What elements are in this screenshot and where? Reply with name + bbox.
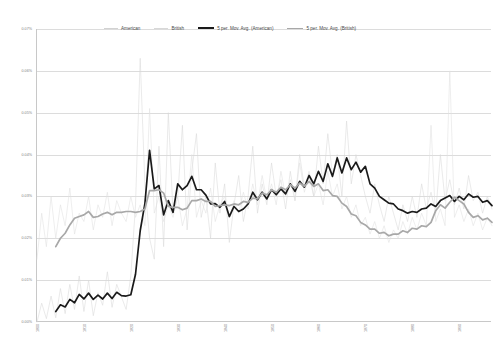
x-axis-tick-label: 1850 — [271, 324, 275, 332]
x-axis-tick-label: 1820 — [130, 324, 134, 332]
x-axis-tick-label: 1860 — [317, 324, 321, 332]
y-axis-labels: 0.00%0.01%0.02%0.03%0.04%0.05%0.06%0.07% — [0, 0, 34, 293]
x-axis-labels: 1800181018201830184018501860187018801890 — [36, 323, 491, 344]
y-axis-tick-label: 0.06% — [22, 69, 32, 73]
series-lines — [37, 29, 492, 322]
x-axis-tick-label: 1870 — [364, 324, 368, 332]
legend-line-swatch-icon — [198, 27, 214, 29]
x-axis-tick-label: 1830 — [177, 324, 181, 332]
legend-line-swatch-icon — [104, 28, 118, 29]
series-line — [37, 58, 492, 322]
series-line — [37, 71, 492, 259]
y-axis-tick-label: 0.03% — [22, 194, 32, 198]
y-axis-tick-label: 0.05% — [22, 111, 32, 115]
legend-item[interactable]: 5 per. Mov. Avg. (British) — [287, 26, 356, 31]
legend-label: American — [121, 26, 140, 31]
y-axis-tick-label: 0.04% — [22, 153, 32, 157]
x-axis-tick-label: 1890 — [458, 324, 462, 332]
x-axis-tick-label: 1840 — [224, 324, 228, 332]
x-axis-tick-label: 1880 — [411, 324, 415, 332]
legend-line-swatch-icon — [154, 28, 168, 29]
legend-label: 5 per. Mov. Avg. (American) — [217, 26, 273, 31]
y-axis-tick-label: 0.02% — [22, 236, 32, 240]
legend-item[interactable]: British — [154, 26, 184, 31]
y-axis-tick-label: 0.00% — [22, 320, 32, 324]
series-line — [56, 181, 492, 246]
y-axis-tick-label: 0.07% — [22, 27, 32, 31]
legend-label: British — [171, 26, 184, 31]
chart-container: 0.00%0.01%0.02%0.03%0.04%0.05%0.06%0.07%… — [0, 0, 501, 344]
y-axis-tick-label: 0.01% — [22, 278, 32, 282]
legend-item[interactable]: 5 per. Mov. Avg. (American) — [198, 26, 273, 31]
chart-legend: AmericanBritish5 per. Mov. Avg. (America… — [104, 22, 434, 34]
x-axis-tick-label: 1810 — [83, 324, 87, 332]
legend-item[interactable]: American — [104, 26, 140, 31]
legend-label: 5 per. Mov. Avg. (British) — [306, 26, 356, 31]
plot-area — [36, 29, 491, 322]
x-axis-tick-label: 1800 — [36, 324, 40, 332]
series-line — [56, 150, 492, 311]
legend-line-swatch-icon — [287, 28, 303, 29]
